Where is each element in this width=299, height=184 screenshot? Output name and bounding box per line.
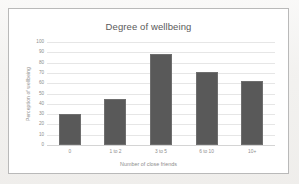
bar-6-to-10 (196, 72, 218, 145)
y-axis-title: Perception of wellbeing (23, 42, 33, 145)
y-axis-tick-label: 50 (39, 91, 44, 96)
bar-slot (93, 42, 139, 145)
x-axis-tick-labels: 01 to 23 to 56 to 1010+ (47, 149, 275, 154)
bar-10+ (241, 81, 263, 145)
bar-slot (229, 42, 275, 145)
y-axis-tick-label: 60 (39, 81, 44, 86)
y-axis-tick-label: 80 (39, 60, 44, 65)
bar-0 (59, 114, 81, 145)
page-background: Degree of wellbeing Perception of wellbe… (0, 0, 299, 184)
y-axis-tick-label: 40 (39, 102, 44, 107)
chart-title: Degree of wellbeing (9, 21, 288, 32)
x-axis-title: Number of close friends (9, 161, 288, 167)
y-axis-title-label: Perception of wellbeing (25, 67, 31, 121)
gridline (47, 145, 275, 146)
x-axis-tick-label: 0 (47, 149, 93, 154)
y-axis-tick-label: 90 (39, 50, 44, 55)
y-axis-tick-label: 10 (39, 132, 44, 137)
y-axis-tick-label: 0 (41, 143, 44, 148)
plot-area: 0102030405060708090100 (47, 42, 275, 145)
bar-3-to-5 (150, 54, 172, 145)
x-axis-tick-label: 3 to 5 (138, 149, 184, 154)
bar-1-to-2 (104, 99, 126, 145)
y-axis-tick-label: 100 (36, 40, 44, 45)
bar-slot (138, 42, 184, 145)
x-axis-tick-label: 1 to 2 (93, 149, 139, 154)
y-axis-tick-label: 30 (39, 112, 44, 117)
bar-slot (47, 42, 93, 145)
bar-series (47, 42, 275, 145)
x-axis-tick-label: 10+ (229, 149, 275, 154)
chart-container: Degree of wellbeing Perception of wellbe… (8, 8, 289, 174)
y-axis-tick-label: 70 (39, 71, 44, 76)
bar-slot (184, 42, 230, 145)
x-axis-tick-label: 6 to 10 (184, 149, 230, 154)
y-axis-tick-label: 20 (39, 122, 44, 127)
